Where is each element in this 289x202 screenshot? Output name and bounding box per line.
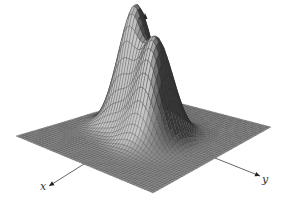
y-axis-line bbox=[215, 158, 260, 176]
x-axis-arrow-icon bbox=[49, 181, 55, 186]
y-axis-label: y bbox=[262, 174, 268, 185]
surface-plot-canvas bbox=[0, 0, 289, 202]
z-axis-label: z bbox=[138, 10, 144, 21]
surface-plot-figure: z x y bbox=[0, 0, 289, 202]
x-axis-line bbox=[49, 164, 84, 186]
x-axis-label: x bbox=[40, 181, 46, 192]
